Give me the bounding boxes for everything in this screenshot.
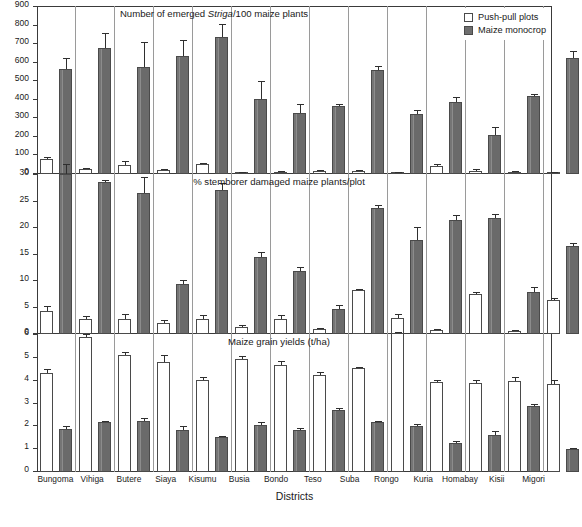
bar-group xyxy=(544,334,582,472)
bar-rect xyxy=(215,37,228,174)
error-bar xyxy=(437,164,438,166)
bar-rect xyxy=(527,292,540,334)
bar-rect xyxy=(566,246,579,334)
error-bar xyxy=(534,287,535,291)
bar-rect xyxy=(293,113,306,174)
error-bar xyxy=(320,328,321,330)
bar-group xyxy=(76,174,115,334)
bar-mono xyxy=(488,174,501,334)
error-bar xyxy=(476,169,477,170)
bar-group xyxy=(193,334,232,472)
legend: Push-pull plots Maize monocrop xyxy=(460,8,550,40)
bar-push xyxy=(391,6,404,174)
bar-push xyxy=(313,334,326,472)
bar-rect xyxy=(196,164,209,174)
bar-push xyxy=(508,174,521,334)
x-axis-title: Districts xyxy=(37,490,552,502)
bar-mono xyxy=(176,6,189,174)
bar-mono xyxy=(59,6,72,174)
bar-mono xyxy=(566,174,579,334)
bar-rect xyxy=(449,443,462,472)
error-bar xyxy=(339,305,340,308)
bar-push xyxy=(391,334,404,472)
error-bar xyxy=(534,94,535,96)
bar-rect xyxy=(469,294,482,334)
bar-mono xyxy=(293,334,306,472)
error-bar xyxy=(554,380,555,384)
error-bar xyxy=(359,170,360,171)
error-bar xyxy=(222,436,223,437)
bar-rect xyxy=(40,373,53,472)
x-tick-label: Kisumu xyxy=(184,472,221,488)
y-tick-label: 500 xyxy=(15,74,29,83)
error-bar xyxy=(105,33,106,48)
error-bar xyxy=(476,292,477,294)
bar-push xyxy=(157,174,170,334)
bar-rect xyxy=(547,384,560,472)
x-tick-label: Bungoma xyxy=(37,472,74,488)
bar-rect xyxy=(157,323,170,334)
error-bar xyxy=(164,169,165,170)
error-bar xyxy=(86,334,87,337)
x-tick-label: Vihiga xyxy=(74,472,111,488)
bar-mono xyxy=(137,6,150,174)
bar-mono xyxy=(98,174,111,334)
bar-push xyxy=(274,6,287,174)
error-bar xyxy=(378,421,379,422)
error-bar xyxy=(105,421,106,423)
error-bar xyxy=(183,426,184,429)
error-bar xyxy=(417,227,418,240)
error-bar xyxy=(515,377,516,381)
bar-rect xyxy=(137,193,150,335)
error-bar xyxy=(261,81,262,100)
x-tick-label: Kuria xyxy=(405,472,442,488)
error-bar xyxy=(300,428,301,430)
error-bar xyxy=(456,97,457,101)
bar-rect xyxy=(547,300,560,334)
panel-yields: 0123456 Maize grain yields (t/ha) xyxy=(0,334,558,472)
bar-push xyxy=(196,334,209,472)
bar-push xyxy=(313,6,326,174)
bar-group xyxy=(115,6,154,174)
bar-rect xyxy=(137,421,150,472)
bar-mono xyxy=(176,334,189,472)
error-bar xyxy=(47,369,48,373)
error-bar xyxy=(300,267,301,271)
bar-mono xyxy=(449,334,462,472)
error-bar xyxy=(495,431,496,435)
bar-rect xyxy=(352,368,365,472)
bar-push xyxy=(430,6,443,174)
bar-rect xyxy=(391,333,404,472)
x-tick-label: Homabay xyxy=(442,472,479,488)
bar-rect xyxy=(40,311,53,334)
bar-group xyxy=(271,174,310,334)
bar-rect xyxy=(254,257,267,334)
error-bar xyxy=(456,441,457,442)
bar-group xyxy=(154,6,193,174)
error-bar xyxy=(554,172,555,173)
bar-rect xyxy=(332,309,345,334)
bar-rect xyxy=(215,437,228,472)
bar-push xyxy=(274,174,287,334)
y-tick-label: 700 xyxy=(15,37,29,46)
bar-rect xyxy=(313,375,326,472)
error-bar xyxy=(554,298,555,300)
bar-push xyxy=(196,174,209,334)
bar-push xyxy=(313,174,326,334)
bar-group xyxy=(232,6,271,174)
x-tick-label: Bondo xyxy=(258,472,295,488)
bar-rect xyxy=(176,56,189,174)
bar-rect xyxy=(430,382,443,472)
bar-group xyxy=(388,6,427,174)
bar-rect xyxy=(254,99,267,174)
bar-mono xyxy=(410,6,423,174)
x-tick-label: Suba xyxy=(331,472,368,488)
error-bar xyxy=(164,355,165,362)
bar-groups-stemborer xyxy=(37,174,552,334)
error-bar xyxy=(398,172,399,173)
bar-mono xyxy=(98,334,111,472)
y-tick-label: 10 xyxy=(20,274,29,283)
bar-group xyxy=(310,174,349,334)
bar-rect xyxy=(293,430,306,472)
